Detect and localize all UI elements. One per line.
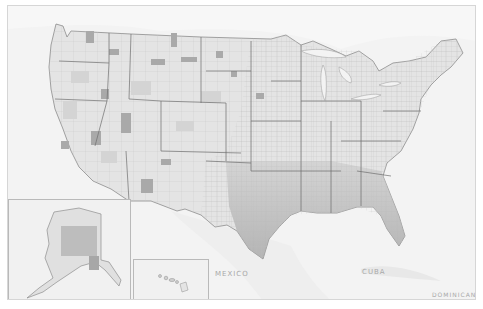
label-cuba: CUBA	[362, 268, 386, 276]
alaska-map	[9, 200, 132, 300]
map-frame[interactable]: MEXICO CUBA DOMINICAN	[7, 5, 476, 300]
southern-county-grid	[226, 161, 405, 259]
label-mexico: MEXICO	[215, 270, 249, 278]
alaska-dark-region	[61, 226, 97, 256]
label-dominican: DOMINICAN	[432, 291, 476, 298]
hawaii-map	[134, 260, 210, 300]
alaska-inset[interactable]	[8, 199, 131, 300]
hawaii-inset[interactable]	[133, 259, 209, 300]
